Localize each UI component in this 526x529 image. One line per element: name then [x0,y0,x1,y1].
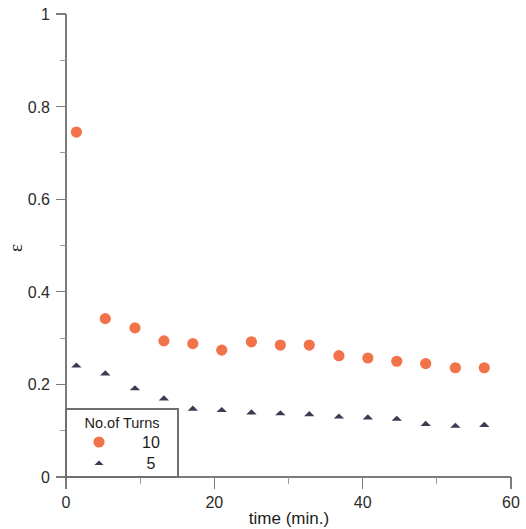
data-point-circle [362,352,373,363]
x-axis-title: time (min.) [249,509,329,528]
data-point-circle [216,345,227,356]
plot-svg: 00.20.40.60.81 0204060 time (min.) ε No.… [0,0,526,529]
data-point-triangle [304,411,314,416]
legend-marker-circle [93,436,104,447]
data-point-circle [333,350,344,361]
data-series-layer [71,126,490,427]
series-10 [71,126,490,373]
data-point-triangle [363,414,373,419]
y-axis-tick-labels: 00.20.40.60.81 [28,6,50,486]
x-tick-label: 40 [354,494,372,511]
data-point-triangle [130,385,140,390]
data-point-triangle [100,370,110,375]
legend-title: No.of Turns [85,415,160,431]
y-axis-ticks [56,14,66,477]
y-tick-label: 0.4 [28,284,50,301]
y-axis-title: ε [5,244,26,252]
chart-legend: No.of Turns105 [66,409,178,477]
data-point-circle [275,339,286,350]
data-point-triangle [334,413,344,418]
y-tick-label: 0.2 [28,376,50,393]
data-point-triangle [392,416,402,421]
x-tick-label: 20 [205,494,223,511]
data-point-triangle [159,395,169,400]
y-tick-label: 1 [41,6,50,23]
legend-entry-label: 10 [142,434,160,451]
legend-entry-label: 5 [147,455,156,472]
data-point-circle [71,126,82,137]
y-tick-label: 0.8 [28,99,50,116]
y-tick-label: 0 [41,469,50,486]
data-point-triangle [450,423,460,428]
data-point-triangle [188,406,198,411]
data-point-circle [450,362,461,373]
data-point-circle [158,335,169,346]
x-tick-label: 60 [502,494,520,511]
data-point-circle [246,336,257,347]
data-point-circle [304,339,315,350]
data-point-triangle [71,362,81,367]
axes-group [66,14,511,477]
data-point-triangle [246,409,256,414]
data-point-circle [420,358,431,369]
data-point-triangle [479,422,489,427]
data-point-circle [479,362,490,373]
data-point-circle [187,338,198,349]
data-point-circle [100,313,111,324]
x-axis-ticks [66,477,511,489]
y-tick-label: 0.6 [28,191,50,208]
data-point-triangle [421,421,431,426]
data-point-circle [391,356,402,367]
x-tick-label: 0 [62,494,71,511]
data-point-circle [129,322,140,333]
data-point-triangle [217,407,227,412]
data-point-triangle [275,410,285,415]
scatter-chart: 00.20.40.60.81 0204060 time (min.) ε No.… [0,0,526,529]
